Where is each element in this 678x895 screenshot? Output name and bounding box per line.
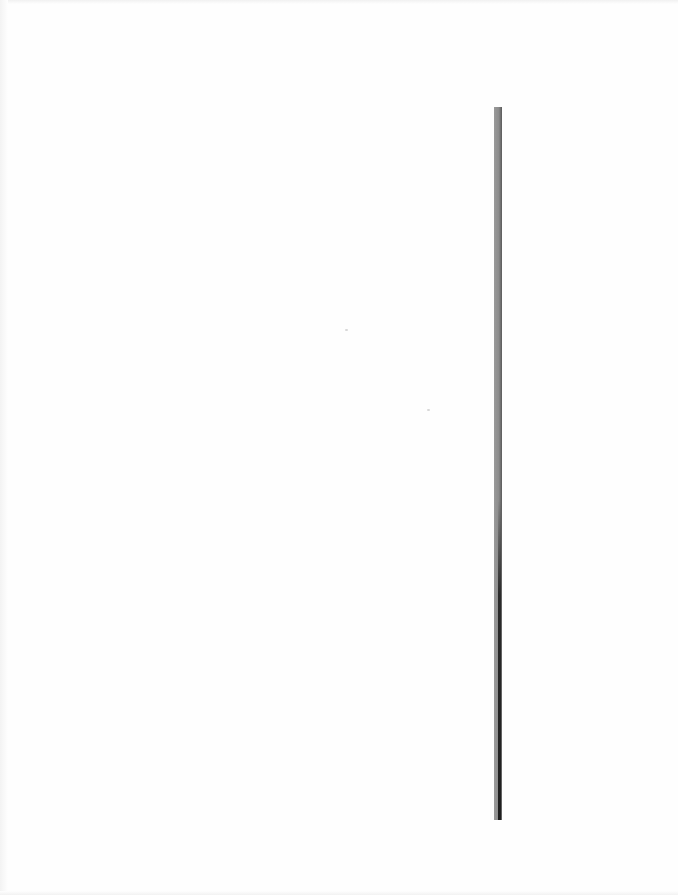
scan-speck <box>345 329 348 331</box>
scan-edge-bottom <box>0 891 678 895</box>
scan-edge-left <box>0 0 8 895</box>
scan-speck <box>427 409 430 411</box>
vertical-rule-line <box>494 107 502 820</box>
vertical-rule-shadow <box>498 499 501 820</box>
blank-page <box>0 0 678 895</box>
scan-edge-top <box>0 0 678 4</box>
